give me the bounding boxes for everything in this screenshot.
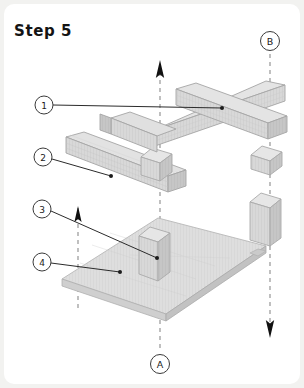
callout-2[interactable]: 2 (34, 148, 52, 166)
callout-3-label: 3 (39, 205, 45, 215)
connector-block-right (251, 146, 282, 175)
marker-a[interactable]: A (151, 355, 170, 374)
arrow-down-right-icon (266, 320, 274, 338)
callout-2-label: 2 (40, 153, 46, 163)
callout-1-label: 1 (41, 101, 47, 111)
marker-b[interactable]: B (261, 32, 280, 51)
post-right (250, 193, 281, 246)
callout-2-tip (109, 174, 113, 178)
callout-1[interactable]: 1 (35, 96, 53, 114)
callout-4-label: 4 (39, 258, 45, 268)
marker-b-label: B (267, 36, 274, 47)
isometric-scene: 1 2 3 4 A B (0, 0, 304, 388)
assembly-diagram-page: Step 5 (0, 0, 304, 388)
post-center-right-face (158, 233, 170, 281)
marker-a-label: A (157, 359, 164, 370)
beam-cross-left-arm-end-face (100, 114, 111, 134)
callout-4[interactable]: 4 (33, 253, 51, 271)
callout-3[interactable]: 3 (33, 200, 51, 218)
callout-3-tip (155, 256, 159, 260)
callout-1-tip (220, 106, 224, 110)
post-right-left-face (250, 202, 270, 246)
callout-4-tip (118, 270, 122, 274)
post-center (139, 227, 170, 281)
